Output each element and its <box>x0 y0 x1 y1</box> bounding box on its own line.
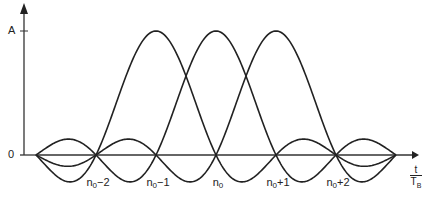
x-tick-label: n0+1 <box>266 177 289 191</box>
y-axis-arrow-icon <box>20 3 28 14</box>
x-tick-label: n0−2 <box>86 177 109 191</box>
x-axis-label-sub: B <box>417 182 422 189</box>
y-label-A: A <box>8 25 15 36</box>
x-tick-label: n0−1 <box>146 177 169 191</box>
x-axis-arrow-icon <box>412 151 419 159</box>
x-tick-label: n0+2 <box>326 177 349 191</box>
pulse-curves <box>36 31 396 182</box>
y-label-zero: 0 <box>8 149 14 160</box>
x-tick-label: n0 <box>213 177 224 191</box>
x-axis-label-num: t <box>415 164 418 175</box>
axes <box>20 3 419 159</box>
chart-canvas <box>0 0 432 199</box>
x-axis-label: t TB <box>410 165 422 190</box>
